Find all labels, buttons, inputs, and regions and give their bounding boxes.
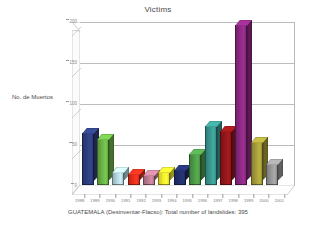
bar-front-face <box>143 175 155 185</box>
x-tick-label: 2001 <box>275 198 284 203</box>
bar-front-face <box>220 131 232 185</box>
x-tick-mark <box>284 194 285 198</box>
bar-top-face <box>97 134 114 139</box>
bar-top-face <box>266 159 283 164</box>
x-tick-mark <box>192 194 193 198</box>
bar-top-face <box>235 20 252 25</box>
x-tick-mark <box>269 194 270 198</box>
bar-series <box>80 21 295 185</box>
x-tick-label: 1992 <box>136 198 145 203</box>
x-tick-label: 1994 <box>167 198 176 203</box>
x-tick-mark <box>253 194 254 198</box>
x-tick-label: 1998 <box>229 198 238 203</box>
x-tick-mark <box>115 194 116 198</box>
chart-title: Victims <box>0 5 316 14</box>
x-tick-mark <box>146 194 147 198</box>
x-tick-label: 1997 <box>213 198 222 203</box>
x-axis-labels: 1988198919901991199219931994199519961997… <box>72 196 302 208</box>
bar-front-face <box>235 25 247 185</box>
bar-front-face <box>158 172 170 185</box>
bar-front-face <box>112 172 124 185</box>
plot-area: 200 150 100 50 0 <box>72 22 302 194</box>
chart-container: Victims No. de Muertos 200 <box>0 0 316 228</box>
y-tick-label-0: 0 <box>74 183 77 188</box>
x-tick-label: 1996 <box>198 198 207 203</box>
x-tick-mark <box>238 194 239 198</box>
bar-front-face <box>189 154 201 185</box>
bar-front-face <box>266 164 278 185</box>
y-axis-label: No. de Muertos <box>12 94 53 100</box>
chart-caption: GUATEMALA (Desinventar-Flacso): Total nu… <box>0 209 316 215</box>
bar-front-face <box>205 126 217 185</box>
x-tick-mark <box>100 194 101 198</box>
x-tick-label: 1991 <box>121 198 130 203</box>
x-tick-mark <box>176 194 177 198</box>
gridline-0: 0 <box>80 186 295 187</box>
bar-front-face <box>97 139 109 185</box>
bar-front-face <box>128 174 140 185</box>
x-tick-label: 1995 <box>183 198 192 203</box>
bar-front-face <box>82 133 94 185</box>
x-tick-label: 1990 <box>106 198 115 203</box>
x-tick-label: 1988 <box>75 198 84 203</box>
x-tick-mark <box>84 194 85 198</box>
x-tick-label: 2000 <box>259 198 268 203</box>
x-tick-label: 1999 <box>244 198 253 203</box>
x-tick-mark <box>223 194 224 198</box>
x-tick-mark <box>207 194 208 198</box>
x-tick-mark <box>161 194 162 198</box>
bar-front-face <box>251 142 263 185</box>
x-tick-label: 1989 <box>90 198 99 203</box>
bar-top-face <box>82 128 99 133</box>
x-tick-mark <box>130 194 131 198</box>
x-tick-label: 1993 <box>152 198 161 203</box>
bar-top-face <box>251 137 268 142</box>
bar-front-face <box>174 170 186 185</box>
